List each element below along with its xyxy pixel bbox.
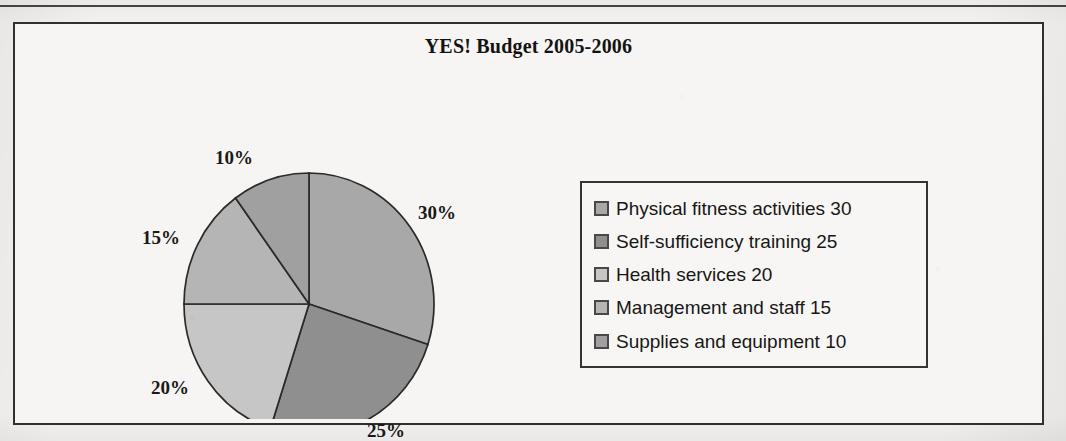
- legend-item-label: Supplies and equipment 10: [616, 332, 846, 351]
- pie-label-management-and-staff: 15%: [142, 227, 180, 249]
- scanned-page: YES! Budget 2005-2006 10% 30% 15% 20% 25…: [0, 0, 1066, 441]
- page-top-rule: [0, 5, 1066, 7]
- pie-slice-group: [184, 173, 434, 419]
- legend-item-label: Self-sufficiency training 25: [616, 232, 837, 251]
- pie-label-health-services: 20%: [151, 377, 189, 399]
- pie-label-supplies-and-equipment: 10%: [215, 147, 253, 169]
- legend-swatch-icon: [594, 201, 609, 216]
- figure-frame: YES! Budget 2005-2006 10% 30% 15% 20% 25…: [13, 22, 1044, 425]
- legend-swatch-icon: [594, 267, 609, 282]
- legend-item-label: Physical fitness activities 30: [616, 199, 852, 218]
- legend-item: Physical fitness activities 30: [594, 192, 916, 224]
- legend-item: Health services 20: [594, 259, 916, 291]
- legend-swatch-icon: [594, 300, 609, 315]
- legend-swatch-icon: [594, 234, 609, 249]
- legend-item: Self-sufficiency training 25: [594, 225, 916, 257]
- chart-legend: Physical fitness activities 30 Self-suff…: [580, 181, 928, 368]
- pie-label-physical-fitness-activities: 30%: [418, 202, 456, 224]
- chart-title: YES! Budget 2005-2006: [15, 35, 1042, 58]
- legend-item-label: Health services 20: [616, 265, 772, 284]
- legend-swatch-icon: [594, 334, 609, 349]
- pie-label-self-sufficiency-training: 25%: [367, 420, 405, 441]
- pie-chart-svg: [115, 119, 535, 419]
- legend-item: Supplies and equipment 10: [594, 325, 916, 357]
- pie-chart: 10% 30% 15% 20% 25%: [115, 119, 535, 419]
- legend-item: Management and staff 15: [594, 292, 916, 324]
- legend-item-label: Management and staff 15: [616, 298, 831, 317]
